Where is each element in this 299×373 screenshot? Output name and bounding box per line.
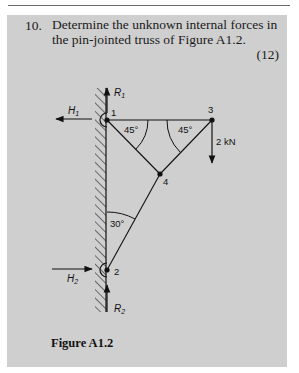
joint-1 bbox=[104, 117, 109, 122]
joint-label-1: 1 bbox=[111, 107, 116, 118]
joint-2 bbox=[104, 267, 109, 272]
joint-4 bbox=[157, 171, 162, 176]
joint-label-2: 2 bbox=[114, 266, 119, 277]
truss-figure: R1 H1 H2 R2 1 2 3 4 45° 45° 30° 2 kN bbox=[0, 0, 299, 373]
label-r1: R1 bbox=[114, 87, 125, 99]
joint-label-4: 4 bbox=[163, 176, 168, 187]
angle-label-joint2: 30° bbox=[110, 218, 125, 229]
label-h1: H1 bbox=[68, 105, 79, 117]
joint-3 bbox=[209, 117, 214, 122]
load-label: 2 kN bbox=[216, 136, 236, 147]
label-r2: R2 bbox=[114, 303, 125, 315]
figure-caption: Figure A1.2 bbox=[51, 336, 113, 351]
truss-members bbox=[107, 120, 212, 270]
label-h2: H2 bbox=[67, 273, 78, 285]
angle-label-joint1: 45° bbox=[124, 124, 139, 135]
angle-label-joint3: 45° bbox=[178, 124, 193, 135]
joint-label-3: 3 bbox=[208, 104, 213, 115]
